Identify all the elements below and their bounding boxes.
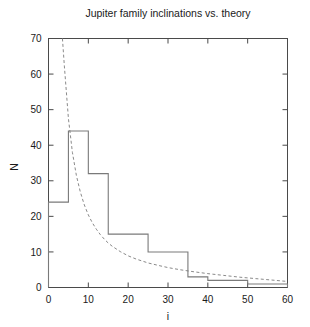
theory-curve [62, 39, 287, 282]
histogram-steps [49, 131, 288, 288]
plot-frame [49, 39, 288, 288]
x-tick-label: 40 [202, 294, 214, 305]
y-tick-label: 0 [36, 282, 42, 293]
x-tick-label: 50 [242, 294, 254, 305]
y-axis-label: N [8, 163, 20, 171]
y-tick-label: 10 [30, 247, 42, 258]
x-tick-label: 10 [83, 294, 95, 305]
x-axis-tick-labels: 0102030405060 [46, 294, 294, 305]
y-axis-tick-labels: 010203040506070 [30, 33, 42, 293]
x-tick-label: 60 [282, 294, 294, 305]
x-tick-label: 0 [46, 294, 52, 305]
y-axis-ticks [49, 39, 288, 288]
x-tick-label: 20 [123, 294, 135, 305]
y-tick-label: 30 [30, 175, 42, 186]
y-tick-label: 40 [30, 140, 42, 151]
x-axis-label: i [167, 310, 169, 322]
x-axis-ticks [49, 39, 288, 288]
y-tick-label: 50 [30, 104, 42, 115]
y-tick-label: 20 [30, 211, 42, 222]
chart-title: Jupiter family inclinations vs. theory [85, 7, 251, 19]
y-tick-label: 70 [30, 33, 42, 44]
x-tick-label: 30 [162, 294, 174, 305]
y-tick-label: 60 [30, 69, 42, 80]
plot-canvas: Jupiter family inclinations vs. theory 0… [0, 0, 310, 327]
